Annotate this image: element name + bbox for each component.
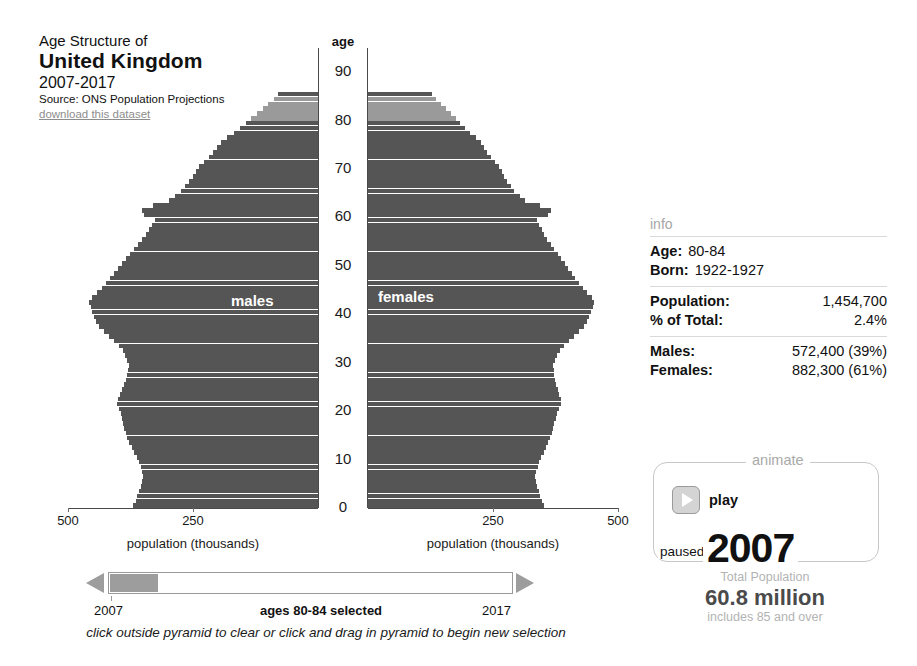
bar[interactable]	[141, 484, 319, 489]
bar[interactable]	[368, 116, 456, 121]
bar[interactable]	[368, 382, 556, 387]
bar[interactable]	[368, 232, 544, 237]
bar[interactable]	[146, 232, 318, 237]
bar[interactable]	[368, 334, 574, 339]
bar[interactable]	[129, 363, 318, 368]
bar[interactable]	[368, 150, 487, 155]
step-forward-arrow-icon[interactable]	[516, 573, 534, 593]
bar[interactable]	[368, 310, 591, 315]
bar[interactable]	[119, 344, 318, 349]
play-icon[interactable]	[672, 486, 700, 514]
bar[interactable]	[128, 368, 318, 373]
bar[interactable]	[126, 431, 319, 436]
bar[interactable]	[368, 373, 554, 378]
bar[interactable]	[368, 140, 481, 145]
bar[interactable]	[368, 227, 542, 232]
bar[interactable]	[368, 237, 547, 242]
bar[interactable]	[123, 348, 318, 353]
bar[interactable]	[368, 223, 539, 228]
bar[interactable]	[181, 189, 318, 194]
bar[interactable]	[126, 256, 318, 261]
bar[interactable]	[368, 276, 575, 281]
bar[interactable]	[227, 135, 318, 140]
bar[interactable]	[96, 319, 318, 324]
bar[interactable]	[97, 290, 318, 295]
bar[interactable]	[368, 281, 579, 286]
bar[interactable]	[368, 450, 544, 455]
bar[interactable]	[142, 479, 318, 484]
bar[interactable]	[368, 416, 556, 421]
bar[interactable]	[368, 339, 569, 344]
bar[interactable]	[155, 218, 318, 223]
bar[interactable]	[368, 460, 539, 465]
bar[interactable]	[368, 121, 460, 126]
bar[interactable]	[274, 97, 318, 102]
bar[interactable]	[121, 411, 319, 416]
bar[interactable]	[368, 247, 554, 252]
bar[interactable]	[127, 436, 318, 441]
bar[interactable]	[153, 203, 318, 208]
bar[interactable]	[114, 271, 318, 276]
bar[interactable]	[124, 382, 318, 387]
bar[interactable]	[368, 102, 441, 107]
bar[interactable]	[149, 227, 318, 232]
bar[interactable]	[106, 281, 318, 286]
bar[interactable]	[368, 363, 553, 368]
bar[interactable]	[133, 503, 318, 508]
bar[interactable]	[217, 145, 318, 150]
bar[interactable]	[368, 111, 451, 116]
bar[interactable]	[368, 455, 541, 460]
play-control[interactable]: play	[672, 486, 738, 514]
bar[interactable]	[189, 179, 318, 184]
bar[interactable]	[368, 126, 465, 131]
bar[interactable]	[368, 194, 520, 199]
bar[interactable]	[368, 92, 432, 97]
bar[interactable]	[143, 474, 318, 479]
bar[interactable]	[89, 300, 318, 305]
bar[interactable]	[368, 261, 565, 266]
bar[interactable]	[92, 310, 318, 315]
bar[interactable]	[368, 305, 593, 310]
bar[interactable]	[368, 353, 557, 358]
bar[interactable]	[368, 319, 587, 324]
bar[interactable]	[142, 470, 318, 475]
bar[interactable]	[152, 223, 318, 228]
bar[interactable]	[134, 450, 318, 455]
bar[interactable]	[138, 242, 318, 247]
bar[interactable]	[109, 334, 318, 339]
bar[interactable]	[144, 213, 318, 218]
bar[interactable]	[368, 169, 502, 174]
bar[interactable]	[368, 470, 536, 475]
bar[interactable]	[94, 315, 318, 320]
bar[interactable]	[368, 106, 446, 111]
bar[interactable]	[368, 198, 525, 203]
bar[interactable]	[134, 247, 318, 252]
bar[interactable]	[137, 494, 318, 499]
bar[interactable]	[368, 242, 551, 247]
bar[interactable]	[118, 397, 318, 402]
bar[interactable]	[114, 339, 318, 344]
bar[interactable]	[221, 140, 318, 145]
bar[interactable]	[196, 169, 318, 174]
population-pyramid-chart[interactable]: age 0102030405060708090 males females 50…	[0, 0, 640, 560]
bar[interactable]	[175, 194, 318, 199]
bar[interactable]	[368, 155, 491, 160]
bar[interactable]	[368, 179, 507, 184]
bar[interactable]	[127, 358, 318, 363]
bar[interactable]	[117, 402, 318, 407]
bar[interactable]	[126, 378, 319, 383]
bar[interactable]	[368, 411, 557, 416]
year-timeline-slider[interactable]: 2007 2017 ages 80-84 selected	[86, 570, 556, 600]
bar[interactable]	[368, 431, 552, 436]
bar[interactable]	[141, 465, 319, 470]
bar[interactable]	[127, 373, 318, 378]
bar[interactable]	[368, 426, 553, 431]
bar[interactable]	[130, 252, 318, 257]
bar[interactable]	[185, 184, 318, 189]
bar[interactable]	[122, 387, 318, 392]
bar[interactable]	[120, 392, 318, 397]
bar[interactable]	[268, 102, 318, 107]
bar[interactable]	[122, 261, 318, 266]
bar[interactable]	[368, 189, 514, 194]
bar[interactable]	[368, 378, 555, 383]
